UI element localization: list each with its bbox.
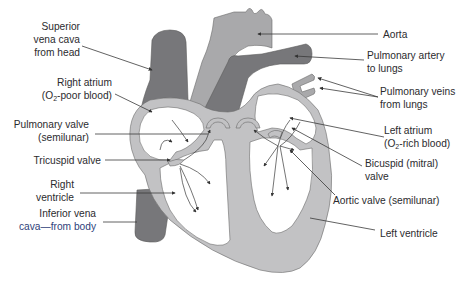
heart-diagram: Superior vena cava from head Right atriu… <box>0 0 470 283</box>
label-left-atrium-2: (O2-rich blood) <box>384 138 450 150</box>
label-superior-vena-cava-3: from head <box>34 47 80 58</box>
label-left-atrium-1: Left atrium <box>384 125 432 136</box>
label-aorta: Aorta <box>383 29 408 40</box>
label-right-ventricle-1: Right <box>50 179 74 190</box>
label-inferior-vena-cava-1: Inferior vena <box>39 208 96 219</box>
label-pulmonary-veins-2: from lungs <box>380 99 428 110</box>
label-bicuspid-valve-2: valve <box>365 171 389 182</box>
label-inferior-vena-cava-2: cava—from body <box>19 221 97 232</box>
label-pulmonary-veins-1: Pulmonary veins <box>380 86 455 97</box>
label-pulmonary-artery-1: Pulmonary artery <box>367 50 445 61</box>
label-pulmonary-valve-1: Pulmonary valve <box>14 119 90 130</box>
label-pulmonary-valve-2: (semilunar) <box>38 132 89 143</box>
label-right-ventricle-2: ventricle <box>36 192 74 203</box>
label-left-ventricle: Left ventricle <box>380 228 438 239</box>
label-right-atrium-2: (O2-poor blood) <box>42 90 112 102</box>
label-superior-vena-cava-1: Superior <box>41 21 80 32</box>
label-aortic-valve: Aortic valve (semilunar) <box>333 195 439 206</box>
label-right-atrium-1: Right atrium <box>57 77 112 88</box>
label-pulmonary-artery-2: to lungs <box>367 63 403 74</box>
label-tricuspid-valve: Tricuspid valve <box>33 155 101 166</box>
label-superior-vena-cava-2: vena cava <box>34 34 81 45</box>
label-bicuspid-valve-1: Bicuspid (mitral) <box>365 158 438 169</box>
